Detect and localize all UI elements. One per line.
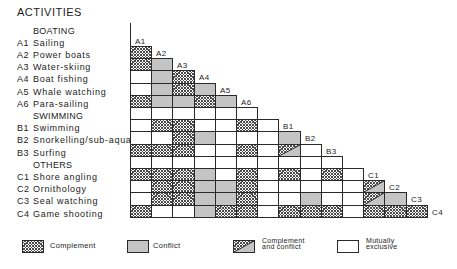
matrix-cell-exclusive [151, 131, 173, 145]
activity-code-c1: C1 [17, 172, 30, 182]
matrix-cell-complement [278, 205, 301, 218]
matrix-label-a2: A2 [156, 49, 167, 58]
activity-interaction-matrix-figure: ACTIVITIES BOATINGA1SailingA2Power boats… [0, 0, 457, 269]
matrix-cell-blank [257, 192, 279, 206]
matrix-label-a4: A4 [199, 73, 210, 82]
activity-code-b3: B3 [17, 148, 29, 158]
matrix-cell-blank [342, 205, 364, 218]
matrix-label-b2: B2 [305, 134, 316, 143]
legend-swatch-mutually-exclusive [337, 240, 359, 253]
matrix-cell-conflict [278, 131, 301, 145]
group-header-boating: BOATING [33, 26, 75, 36]
matrix-label-a1: A1 [135, 37, 146, 46]
group-header-swimming: SWIMMING [33, 111, 83, 121]
activity-code-a5: A5 [17, 87, 29, 97]
activity-name-a5: Whale watching [33, 87, 106, 97]
matrix-cell-exclusive [151, 205, 173, 218]
matrix-cell-complement [172, 70, 195, 84]
activity-name-a1: Sailing [33, 38, 65, 48]
legend-label-complement: Complement [50, 242, 96, 250]
activity-code-a2: A2 [17, 50, 29, 60]
matrix-cell-exclusive [172, 205, 195, 218]
activity-name-a3: Water-skiing [33, 62, 91, 72]
matrix-cell-complement [300, 205, 322, 218]
matrix-cell-conflict [151, 70, 173, 84]
matrix-cell-conflict [194, 131, 216, 145]
matrix-cell-complement [406, 205, 428, 218]
diagonal-divider-icon [279, 145, 300, 156]
activity-name-a6: Para-sailing [33, 99, 89, 109]
activity-code-a6: A6 [17, 99, 29, 109]
activity-name-a4: Boat fishing [33, 74, 88, 84]
matrix-label-b3: B3 [326, 147, 337, 156]
matrix-cell-blank [257, 131, 279, 145]
legend-label-line: and conflict [262, 244, 305, 251]
matrix-cell-complement [384, 205, 407, 218]
matrix-cell-both [363, 192, 385, 206]
matrix-cell-conflict [384, 192, 407, 206]
matrix-cell-exclusive [236, 131, 258, 145]
matrix-label-c1: C1 [368, 171, 379, 180]
activity-name-a2: Power boats [33, 50, 91, 60]
matrix-cell-complement [172, 192, 195, 206]
legend-swatch-complement [22, 240, 44, 253]
matrix-label-c4: C4 [432, 208, 443, 217]
activity-name-c1: Shore angling [33, 172, 98, 182]
matrix-cell-exclusive [130, 192, 152, 206]
group-header-others: OTHERS [33, 160, 72, 170]
matrix-cell-exclusive [130, 131, 152, 145]
matrix-label-c2: C2 [389, 183, 400, 192]
activity-name-c4: Game shooting [33, 209, 103, 219]
matrix-cell-complement [236, 205, 258, 218]
diagonal-divider-icon [364, 193, 384, 205]
figure-title: ACTIVITIES [17, 6, 82, 18]
matrix-cell-complement [321, 205, 343, 218]
activity-code-a4: A4 [17, 74, 29, 84]
legend-label-conflict: Conflict [153, 242, 180, 250]
matrix-cell-blank [257, 205, 279, 218]
activity-name-b1: Swimming [33, 123, 80, 133]
matrix-cell-conflict [215, 192, 237, 206]
activity-name-b3: Surfing [33, 148, 66, 158]
matrix-label-a5: A5 [220, 86, 231, 95]
activity-code-a3: A3 [17, 62, 29, 72]
activity-name-b2: Snorkelling/sub-aqua [33, 135, 132, 145]
legend-label-mutually-exclusive: Mutually exclusive [366, 238, 398, 251]
activity-code-c2: C2 [17, 184, 30, 194]
legend-swatch-complement-and-conflict [233, 240, 255, 253]
matrix-cell-exclusive [278, 192, 301, 206]
matrix-cell-conflict [194, 192, 216, 206]
matrix-cell-complement [172, 131, 195, 145]
matrix-cell-complement [236, 192, 258, 206]
matrix-cell-exclusive [321, 192, 343, 206]
matrix-cell-complement [363, 205, 385, 218]
diagonal-divider-icon [364, 181, 384, 192]
legend-swatch-conflict [127, 240, 149, 253]
legend-label-complement-and-conflict: Complement and conflict [262, 238, 305, 251]
matrix-label-c3: C3 [411, 195, 422, 204]
matrix-cell-exclusive [215, 131, 237, 145]
matrix-label-b1: B1 [283, 122, 294, 131]
matrix-cell-complement [151, 192, 173, 206]
legend-label-line: exclusive [366, 244, 398, 251]
matrix-cell-blank [342, 192, 364, 206]
activity-code-c4: C4 [17, 209, 30, 219]
matrix-cell-conflict [194, 205, 216, 218]
matrix-cell-exclusive [130, 70, 152, 84]
activity-code-a1: A1 [17, 38, 29, 48]
matrix-label-a6: A6 [241, 98, 252, 107]
diagonal-divider-icon [234, 241, 254, 252]
matrix-label-a3: A3 [177, 61, 188, 70]
matrix-cell-complement [130, 205, 152, 218]
activity-code-c3: C3 [17, 196, 30, 206]
activity-code-b1: B1 [17, 123, 29, 133]
matrix-cell-complement [215, 205, 237, 218]
activity-code-b2: B2 [17, 135, 29, 145]
matrix-cell-conflict [300, 192, 322, 206]
activity-name-c2: Ornithology [33, 184, 87, 194]
activity-name-c3: Seal watching [33, 196, 98, 206]
